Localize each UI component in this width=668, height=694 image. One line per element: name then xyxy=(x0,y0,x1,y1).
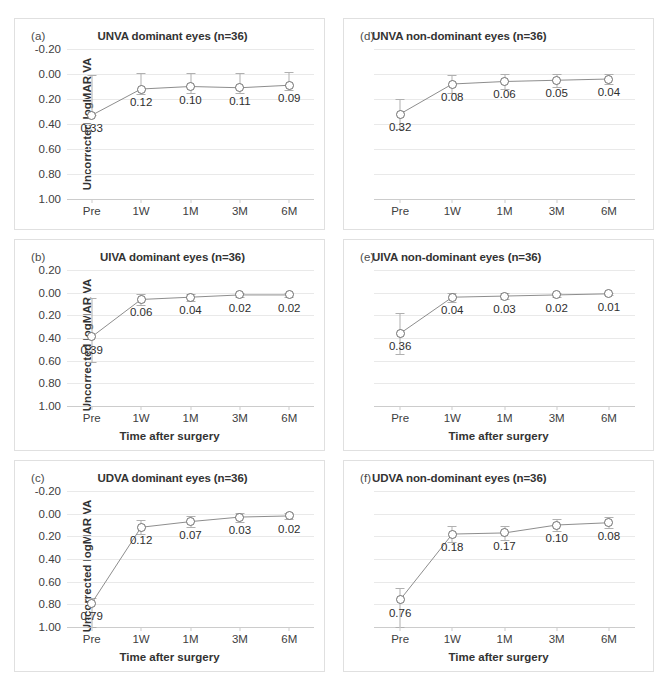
series-plot-e xyxy=(374,270,635,406)
panel-header-c: (c)UDVA dominant eyes (n=36) xyxy=(15,470,324,486)
x-axis-tick-label: 1M xyxy=(183,633,199,645)
series-plot-d xyxy=(374,49,635,199)
x-axis-tick-label: 1M xyxy=(183,205,199,217)
x-axis-tick-mark xyxy=(190,199,191,203)
y-axis-tick-label: 0.20 xyxy=(39,309,61,321)
panel-header-e: (e)UIVA non-dominant eyes (n=36) xyxy=(344,249,653,265)
x-axis-tick-mark xyxy=(452,406,453,410)
panel-header-b: (b)UIVA dominant eyes (n=36) xyxy=(15,249,324,265)
x-axis-tick-mark xyxy=(556,627,557,631)
x-axis-tick-mark xyxy=(141,406,142,410)
data-point-marker xyxy=(552,521,561,530)
x-axis-tick-mark xyxy=(556,406,557,410)
y-axis-tick-label: 0.20 xyxy=(39,264,61,276)
data-point-label: 0.09 xyxy=(278,92,300,104)
y-axis-tick-label: 0.60 xyxy=(39,355,61,367)
plot-area-e: 0.360.040.030.020.01 xyxy=(374,270,635,406)
panel-title-e: UIVA non-dominant eyes (n=36) xyxy=(344,251,653,263)
y-axis-tick-label: -0.20 xyxy=(35,43,61,55)
panel-title-d: UNVA non-dominant eyes (n=36) xyxy=(344,30,653,42)
x-axis-tick-label: Pre xyxy=(83,205,101,217)
y-axis-tick-label: 0.00 xyxy=(39,68,61,80)
x-axis-tick-mark xyxy=(400,199,401,203)
x-axis-tick-mark xyxy=(141,199,142,203)
x-axis-tick-label: 6M xyxy=(281,205,297,217)
panel-letter-c: (c) xyxy=(31,472,45,484)
x-axis-tick-label: 3M xyxy=(549,633,565,645)
data-point-label: 0.08 xyxy=(598,530,620,542)
data-point-label: 0.04 xyxy=(179,304,201,316)
y-axis-tick-label: 0.80 xyxy=(39,377,61,389)
data-point-label: 0.02 xyxy=(278,523,300,535)
x-axis-tick-mark xyxy=(452,199,453,203)
x-axis-tick-label: 3M xyxy=(549,205,565,217)
panel-header-f: (f)UDVA non-dominant eyes (n=36) xyxy=(344,470,653,486)
chart-panel-d: (d)UNVA non-dominant eyes (n=36)0.320.08… xyxy=(343,18,654,230)
y-axis-tick-label: 0.20 xyxy=(39,93,61,105)
data-point-label: 0.04 xyxy=(441,304,463,316)
data-point-label: 0.11 xyxy=(229,95,251,107)
data-point-marker xyxy=(87,599,96,608)
panel-letter-b: (b) xyxy=(31,251,45,263)
data-point-label: 0.03 xyxy=(229,524,251,536)
x-axis-tick-mark xyxy=(452,627,453,631)
x-axis-tick-mark xyxy=(504,406,505,410)
x-axis-tick-label: 3M xyxy=(232,412,248,424)
x-axis-tick-mark xyxy=(608,199,609,203)
x-axis-tick-label: 3M xyxy=(232,205,248,217)
series-plot-a xyxy=(67,49,314,199)
x-axis-title-f: Time after surgery xyxy=(344,651,653,663)
y-axis-tick-label: 0.20 xyxy=(39,530,61,542)
data-point-label: 0.32 xyxy=(389,121,411,133)
panel-title-f: UDVA non-dominant eyes (n=36) xyxy=(344,472,653,484)
y-axis-tick-label: 1.00 xyxy=(39,400,61,412)
panel-title-c: UDVA dominant eyes (n=36) xyxy=(15,472,324,484)
chart-panel-a: (a)UNVA dominant eyes (n=36)Uncorrected … xyxy=(14,18,325,230)
data-point-label: 0.03 xyxy=(493,303,515,315)
x-axis-title-c: Time after surgery xyxy=(15,651,324,663)
x-axis-tick-label: 1M xyxy=(497,633,513,645)
x-axis-tick-label: 6M xyxy=(601,205,617,217)
x-axis-tick-label: 6M xyxy=(601,633,617,645)
series-plot-f xyxy=(374,491,635,627)
data-point-label: 0.12 xyxy=(130,534,152,546)
data-point-marker xyxy=(235,513,244,522)
data-point-marker xyxy=(396,329,405,338)
series-plot-c xyxy=(67,491,314,627)
x-axis-title-b: Time after surgery xyxy=(15,430,324,442)
x-axis-tick-mark xyxy=(504,627,505,631)
plot-area-c: -0.200.000.200.400.600.801.000.790.120.0… xyxy=(67,491,314,627)
x-axis-tick-mark xyxy=(400,406,401,410)
x-axis-tick-label: Pre xyxy=(391,633,409,645)
x-axis-tick-mark xyxy=(608,406,609,410)
x-axis-tick-label: 6M xyxy=(601,412,617,424)
data-point-label: 0.12 xyxy=(130,96,152,108)
x-axis-tick-label: 3M xyxy=(549,412,565,424)
data-point-label: 0.05 xyxy=(545,87,567,99)
y-axis-tick-label: 0.40 xyxy=(39,332,61,344)
x-axis-tick-mark xyxy=(190,627,191,631)
x-axis-tick-label: 1W xyxy=(444,412,461,424)
y-axis-tick-label: 0.80 xyxy=(39,168,61,180)
data-point-marker xyxy=(396,110,405,119)
y-axis-tick-label: 0.40 xyxy=(39,553,61,565)
data-point-label: 0.04 xyxy=(598,86,620,98)
data-point-label: 0.07 xyxy=(179,529,201,541)
panel-letter-e: (e) xyxy=(360,251,374,263)
data-point-label: 0.06 xyxy=(493,88,515,100)
x-axis-tick-mark xyxy=(504,199,505,203)
panel-letter-d: (d) xyxy=(360,30,374,42)
panel-header-d: (d)UNVA non-dominant eyes (n=36) xyxy=(344,28,653,44)
data-point-label: 0.06 xyxy=(130,306,152,318)
data-point-marker xyxy=(552,76,561,85)
x-axis-tick-mark xyxy=(289,627,290,631)
plot-area-f: 0.760.180.170.100.08 xyxy=(374,491,635,627)
panel-title-b: UIVA dominant eyes (n=36) xyxy=(15,251,324,263)
data-point-label: 0.02 xyxy=(229,302,251,314)
plot-area-a: -0.200.000.200.400.600.801.000.330.120.1… xyxy=(67,49,314,199)
data-point-label: 0.10 xyxy=(179,94,201,106)
x-axis-tick-label: 1W xyxy=(132,412,149,424)
y-axis-tick-label: 0.80 xyxy=(39,598,61,610)
data-point-label: 0.79 xyxy=(80,610,102,622)
data-point-marker xyxy=(137,523,146,532)
